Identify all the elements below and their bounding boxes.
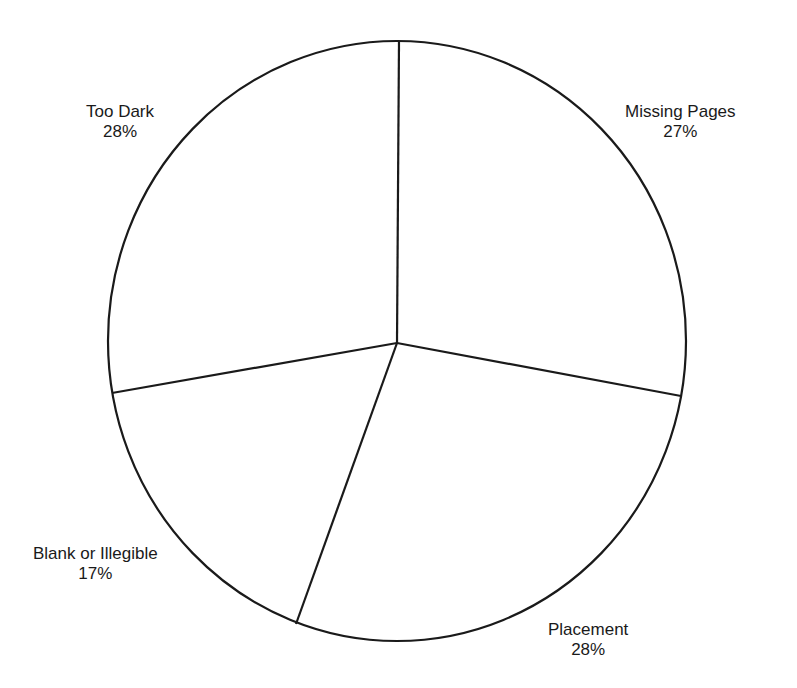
slice-label-missing-pages: Missing Pages 27%	[625, 102, 736, 142]
slice-label-blank-or-illegible: Blank or Illegible 17%	[33, 544, 158, 584]
slice-name: Too Dark	[86, 102, 154, 122]
slice-label-too-dark: Too Dark 28%	[86, 102, 154, 142]
slice-name: Missing Pages	[625, 102, 736, 122]
slice-percent: 28%	[548, 640, 628, 660]
slice-name: Placement	[548, 620, 628, 640]
slice-label-placement: Placement 28%	[548, 620, 628, 660]
slice-percent: 17%	[33, 564, 158, 584]
slice-percent: 28%	[86, 122, 154, 142]
slice-name: Blank or Illegible	[33, 544, 158, 564]
slice-percent: 27%	[625, 122, 736, 142]
